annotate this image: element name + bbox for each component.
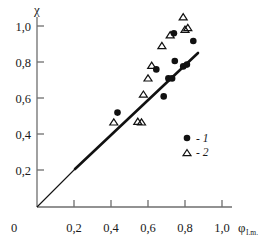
y-tick-label: 0,6 — [15, 92, 31, 106]
x-axis-title: φ — [238, 220, 246, 235]
y-tick-label: 1,0 — [15, 20, 31, 34]
x-tick-labels: 0 0,2 0,4 0,6 0,8 1,0 — [11, 221, 230, 235]
y-axis-title: χ — [33, 2, 40, 17]
data-point — [172, 58, 179, 65]
x-tick-label: 0,4 — [103, 221, 119, 235]
legend: - 1 - 2 — [183, 132, 209, 158]
data-point — [160, 93, 167, 100]
y-tick-label: 0,2 — [15, 164, 31, 178]
x-tick-label: 0 — [11, 221, 17, 235]
data-point — [153, 66, 160, 73]
y-axis-ticks — [37, 26, 44, 170]
legend-label-2: - 2 — [196, 146, 209, 158]
data-point — [144, 75, 152, 81]
legend-label-1: - 1 — [196, 132, 208, 144]
y-tick-label: 0,8 — [15, 56, 31, 70]
data-point — [179, 14, 187, 20]
data-point — [148, 62, 156, 68]
trend-line-thin — [37, 169, 75, 207]
x-axis-title-subscript: I.m. — [246, 228, 258, 237]
data-point — [190, 38, 197, 45]
chart-figure: 1,0 0,8 0,6 0,4 0,2 0 0,2 0,4 0,6 0,8 1,… — [0, 0, 265, 241]
series-1-points — [114, 30, 196, 116]
x-tick-label: 0,6 — [140, 221, 156, 235]
legend-marker-open-triangle — [183, 150, 191, 156]
y-tick-label: 0,4 — [15, 128, 31, 142]
x-axis-ticks — [74, 200, 222, 207]
data-point — [158, 42, 166, 48]
y-tick-labels: 1,0 0,8 0,6 0,4 0,2 — [15, 20, 31, 178]
x-tick-label: 0,8 — [177, 221, 193, 235]
x-tick-label: 1,0 — [214, 221, 230, 235]
data-point — [139, 91, 147, 97]
legend-marker-filled-circle — [184, 135, 191, 142]
trend-line-thick — [75, 53, 198, 169]
data-point — [110, 119, 118, 125]
scatter-plot-svg: 1,0 0,8 0,6 0,4 0,2 0 0,2 0,4 0,6 0,8 1,… — [0, 0, 265, 241]
x-tick-label: 0,2 — [66, 221, 82, 235]
data-point — [114, 109, 121, 116]
data-point — [169, 75, 176, 82]
data-point — [184, 61, 191, 68]
